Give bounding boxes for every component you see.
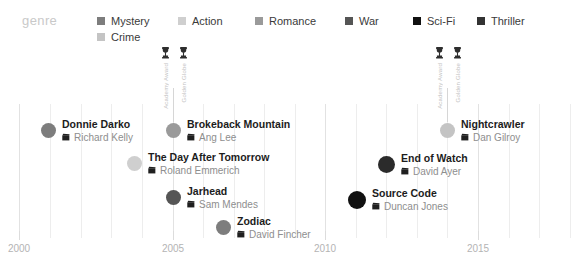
award-item[interactable]: Golden Globe xyxy=(452,46,463,102)
legend-swatch-icon xyxy=(413,17,421,25)
film-entry[interactable]: End of WatchDavid Ayer xyxy=(378,153,468,177)
clapperboard-icon xyxy=(148,166,156,174)
film-genre-dot[interactable] xyxy=(166,190,181,205)
film-director-row: Duncan Jones xyxy=(372,201,448,212)
legend-item-label: Crime xyxy=(111,31,140,43)
clapperboard-icon xyxy=(62,133,70,141)
award-label: Golden Globe xyxy=(181,63,187,102)
legend-swatch-icon xyxy=(97,17,105,25)
trophy-icon xyxy=(178,46,189,61)
film-title: Source Code xyxy=(372,188,448,200)
legend-item-romance[interactable]: Romance xyxy=(255,15,316,27)
award-item[interactable]: Golden Globe xyxy=(178,46,189,102)
legend-item-war[interactable]: War xyxy=(345,15,379,27)
legend-item-label: Action xyxy=(192,15,223,27)
film-entry-text: End of WatchDavid Ayer xyxy=(401,153,468,177)
award-label: Academy Award xyxy=(437,63,443,109)
legend-item-label: Sci-Fi xyxy=(427,15,455,27)
film-genre-dot[interactable] xyxy=(440,123,455,138)
trophy-icon xyxy=(160,46,171,61)
film-entry[interactable]: ZodiacDavid Fincher xyxy=(216,216,311,240)
film-director: David Fincher xyxy=(249,229,311,240)
legend-item-thriller[interactable]: Thriller xyxy=(477,15,525,27)
film-director-row: Roland Emmerich xyxy=(148,165,269,176)
legend-item-crime[interactable]: Crime xyxy=(97,31,140,43)
trophy-icon xyxy=(452,46,463,61)
legend-item-sci-fi[interactable]: Sci-Fi xyxy=(413,15,455,27)
clapperboard-icon xyxy=(461,133,469,141)
film-title: Zodiac xyxy=(237,216,311,228)
legend-item-label: Thriller xyxy=(491,15,525,27)
film-entry-text: Donnie DarkoRichard Kelly xyxy=(62,119,133,143)
film-title: Donnie Darko xyxy=(62,119,133,131)
axis-tick-mark xyxy=(325,231,326,240)
award-item[interactable]: Academy Award xyxy=(160,46,171,109)
clapperboard-icon xyxy=(187,133,195,141)
film-title: The Day After Tomorrow xyxy=(148,152,269,164)
film-director: David Ayer xyxy=(413,166,461,177)
film-title: End of Watch xyxy=(401,153,468,165)
clapperboard-icon xyxy=(237,230,245,238)
film-director-row: Sam Mendes xyxy=(187,199,258,210)
film-entry[interactable]: Donnie DarkoRichard Kelly xyxy=(41,119,133,143)
film-director: Duncan Jones xyxy=(384,201,448,212)
film-genre-dot[interactable] xyxy=(378,156,395,173)
film-entry-text: JarheadSam Mendes xyxy=(187,186,258,210)
film-title: Brokeback Mountain xyxy=(187,119,290,131)
film-director-row: Dan Gilroy xyxy=(461,132,525,143)
axis-tick-label: 2000 xyxy=(8,243,30,254)
clapperboard-icon xyxy=(187,200,195,208)
film-title: Nightcrawler xyxy=(461,119,525,131)
legend-swatch-icon xyxy=(477,17,485,25)
film-genre-dot[interactable] xyxy=(166,123,181,138)
legend-title: genre xyxy=(22,13,57,28)
film-entry-text: The Day After TomorrowRoland Emmerich xyxy=(148,152,269,176)
film-genre-dot[interactable] xyxy=(127,156,142,171)
film-entry[interactable]: Brokeback MountainAng Lee xyxy=(166,119,290,143)
axis-tick-label: 2010 xyxy=(314,243,336,254)
legend-item-mystery[interactable]: Mystery xyxy=(97,15,150,27)
gridline xyxy=(356,104,357,238)
film-director-row: David Fincher xyxy=(237,229,311,240)
film-genre-dot[interactable] xyxy=(348,191,366,209)
film-director: Sam Mendes xyxy=(199,199,258,210)
gridline xyxy=(570,104,571,238)
film-entry-text: Source CodeDuncan Jones xyxy=(372,188,448,212)
award-item-list: Academy AwardGolden Globe xyxy=(434,46,463,109)
clapperboard-icon xyxy=(372,202,380,210)
film-director-row: David Ayer xyxy=(401,166,468,177)
legend-swatch-icon xyxy=(178,17,186,25)
film-entry-text: ZodiacDavid Fincher xyxy=(237,216,311,240)
legend-item-label: Mystery xyxy=(111,15,150,27)
film-genre-dot[interactable] xyxy=(41,123,56,138)
axis-tick-label: 2005 xyxy=(162,243,184,254)
legend-item-label: War xyxy=(359,15,379,27)
film-director-row: Ang Lee xyxy=(187,132,290,143)
clapperboard-icon xyxy=(401,167,409,175)
film-entry[interactable]: NightcrawlerDan Gilroy xyxy=(440,119,525,143)
timeline-chart: genre MysteryActionRomanceWarSci-FiThril… xyxy=(0,0,577,279)
gridline xyxy=(19,104,20,238)
legend-swatch-icon xyxy=(345,17,353,25)
award-item[interactable]: Academy Award xyxy=(434,46,445,109)
film-director-row: Richard Kelly xyxy=(62,132,133,143)
legend-item-action[interactable]: Action xyxy=(178,15,223,27)
film-entry-text: Brokeback MountainAng Lee xyxy=(187,119,290,143)
axis-tick-mark xyxy=(478,231,479,240)
film-genre-dot[interactable] xyxy=(216,220,231,235)
film-entry[interactable]: Source CodeDuncan Jones xyxy=(348,188,448,212)
legend-item-label: Romance xyxy=(269,15,316,27)
film-director: Richard Kelly xyxy=(74,132,133,143)
film-director: Ang Lee xyxy=(199,132,236,143)
film-director: Dan Gilroy xyxy=(473,132,520,143)
gridline xyxy=(325,104,326,238)
award-item-list: Academy AwardGolden Globe xyxy=(160,46,189,109)
film-title: Jarhead xyxy=(187,186,258,198)
gridline xyxy=(539,104,540,238)
trophy-icon xyxy=(434,46,445,61)
award-label: Academy Award xyxy=(163,63,169,109)
axis-tick-mark xyxy=(19,231,20,240)
film-entry[interactable]: The Day After TomorrowRoland Emmerich xyxy=(127,152,269,176)
film-entry[interactable]: JarheadSam Mendes xyxy=(166,186,258,210)
legend-swatch-icon xyxy=(255,17,263,25)
